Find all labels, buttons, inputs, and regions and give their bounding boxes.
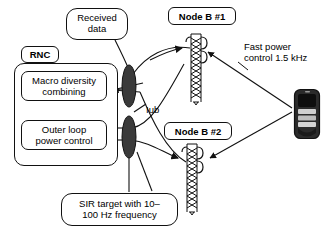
- node-b-2-label: Node B #2: [164, 122, 232, 140]
- cell-tower-icon: [176, 142, 208, 216]
- fast-power-control-label: Fast power control 1.5 kHz: [244, 42, 307, 63]
- cell-tower-icon: [180, 32, 212, 106]
- node-b-1-label: Node B #1: [168, 7, 236, 25]
- iub-label: Iub: [146, 104, 159, 115]
- antenna-ellipse-icon: [122, 65, 136, 107]
- diagram-canvas: RNC Macro diversity combining Outer loop…: [0, 0, 334, 232]
- fast-power-line2: control 1.5 kHz: [244, 52, 307, 63]
- fast-power-line1: Fast power: [244, 41, 291, 52]
- mobile-handset-icon: [293, 88, 321, 140]
- antenna-ellipse-icon: [122, 116, 136, 158]
- antenna-ellipses-layer: [0, 0, 334, 232]
